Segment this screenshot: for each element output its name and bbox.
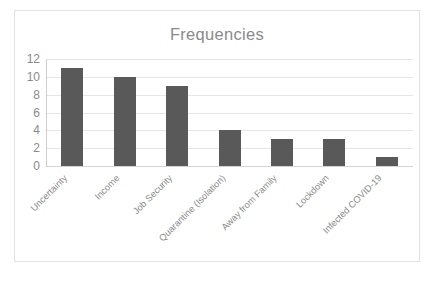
- x-axis-tick-label: Away from Family: [220, 173, 279, 232]
- y-axis-tick-label: 2: [33, 142, 40, 154]
- gridline: [46, 166, 413, 167]
- x-axis-tick-label: Job Security: [131, 173, 174, 216]
- chart-frame: Frequencies 024681012 UncertaintyIncomeJ…: [14, 10, 420, 262]
- bar: [61, 68, 83, 166]
- bar: [166, 86, 188, 166]
- gridline: [46, 77, 413, 78]
- x-axis-tick-label: Infected COVID-19: [321, 173, 384, 236]
- bar: [376, 157, 398, 166]
- bar: [219, 130, 241, 166]
- y-axis-tick-label: 10: [27, 71, 40, 83]
- plot-area: 024681012 UncertaintyIncomeJob SecurityQ…: [46, 59, 413, 166]
- y-axis-tick-label: 6: [33, 107, 40, 119]
- y-axis-tick-label: 0: [33, 160, 40, 172]
- x-axis-tick-label: Lockdown: [295, 173, 332, 210]
- bar: [323, 139, 345, 166]
- y-axis-tick-label: 4: [33, 124, 40, 136]
- y-axis-line: [46, 59, 47, 166]
- y-axis-tick-label: 8: [33, 89, 40, 101]
- x-axis-tick-label: Uncertainty: [29, 173, 69, 213]
- gridline: [46, 95, 413, 96]
- gridline: [46, 59, 413, 60]
- x-axis-tick-label: Income: [93, 173, 122, 202]
- bar: [271, 139, 293, 166]
- y-axis-tick-label: 12: [27, 53, 40, 65]
- bar: [114, 77, 136, 166]
- gridline: [46, 113, 413, 114]
- chart-title: Frequencies: [15, 25, 419, 44]
